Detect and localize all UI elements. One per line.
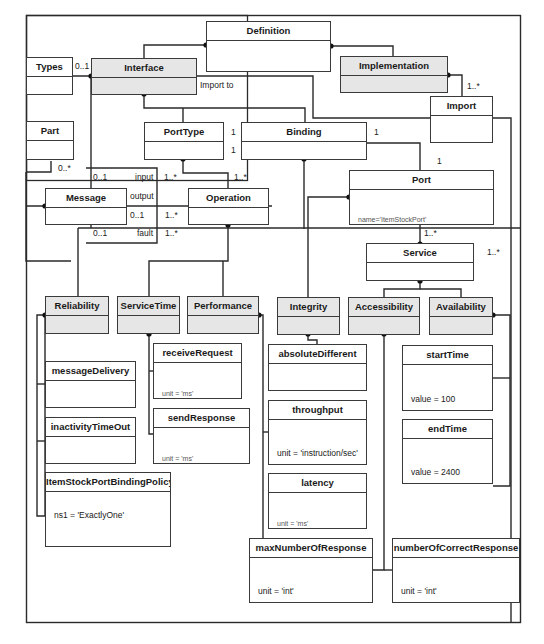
class-performance-name: Performance: [188, 297, 258, 316]
porttype-mult-1: 1: [231, 127, 236, 137]
class-starttime[interactable]: startTime value = 100: [402, 345, 493, 411]
port-multiplicity: 1: [437, 156, 442, 166]
class-part-name: Part: [27, 122, 73, 141]
class-policy-attr: ns1 = 'ExactlyOne': [54, 510, 124, 520]
import-multiplicity: 1..*: [467, 81, 480, 91]
class-inactivitytimeout-name: inactivityTimeOut: [46, 418, 135, 437]
class-numberofcorrectresponse-attr: unit = 'int': [401, 586, 437, 596]
types-multiplicity: 0..1: [75, 61, 89, 71]
fault-multiplicity: 0..1: [93, 228, 107, 238]
class-definition-name: Definition: [207, 22, 330, 41]
import-to-label: Import to: [200, 80, 234, 90]
class-availability[interactable]: Availability: [429, 297, 493, 335]
class-operation[interactable]: Operation: [188, 188, 269, 225]
class-reliability-name: Reliability: [46, 297, 108, 316]
class-servicetime[interactable]: ServiceTime: [117, 296, 180, 334]
class-maxnumberofresponse[interactable]: maxNumberOfResponse unit = 'int': [249, 538, 373, 603]
class-binding-name: Binding: [242, 123, 366, 142]
class-port-name: Port: [350, 171, 493, 190]
service-right-multiplicity: 1..*: [487, 247, 500, 257]
operation-multiplicity: 1..*: [234, 172, 247, 182]
input-multiplicity: 0..1: [93, 172, 107, 182]
class-sendresponse-name: sendResponse: [154, 409, 249, 428]
class-accessibility-name: Accessibility: [349, 298, 419, 317]
class-port[interactable]: Port name='ItemStockPort': [349, 170, 494, 225]
class-availability-name: Availability: [430, 298, 492, 317]
class-service-name: Service: [367, 244, 473, 263]
class-types-name: Types: [27, 58, 72, 77]
class-import-name: Import: [431, 97, 492, 116]
input-label: input: [135, 172, 153, 182]
class-reliability[interactable]: Reliability: [45, 296, 109, 334]
output-multiplicity: 0..1: [130, 210, 144, 220]
class-throughput-attr: unit = 'instruction/sec': [277, 448, 358, 458]
class-message-name: Message: [46, 189, 126, 208]
class-throughput[interactable]: throughput unit = 'instruction/sec': [268, 400, 367, 465]
class-policy-name: ItemStockPortBindingPolicy: [46, 473, 170, 492]
class-latency-attr: unit = 'ms': [277, 520, 308, 527]
class-implementation-name: Implementation: [341, 57, 447, 76]
class-inactivitytimeout[interactable]: inactivityTimeOut: [45, 417, 136, 464]
class-part[interactable]: Part: [26, 121, 74, 160]
output-label: output: [130, 191, 154, 201]
class-latency[interactable]: latency unit = 'ms': [268, 473, 367, 529]
class-receiverequest-attr: unit = 'ms': [162, 390, 193, 397]
service-multiplicity: 1..*: [424, 228, 437, 238]
class-latency-name: latency: [269, 474, 366, 493]
class-absolutedifferent-name: absoluteDifferent: [269, 345, 366, 364]
fault-label: fault: [137, 228, 153, 238]
class-service[interactable]: Service: [366, 243, 474, 281]
class-endtime[interactable]: endTime value = 2400: [402, 419, 493, 484]
class-operation-name: Operation: [189, 189, 268, 208]
class-numberofcorrectresponse[interactable]: numberOfCorrectResponse unit = 'int': [392, 538, 520, 603]
porttype-mult-2: 1: [231, 145, 236, 155]
class-receiverequest[interactable]: receiveRequest unit = 'ms': [153, 343, 242, 399]
input-op-multiplicity: 1..*: [164, 172, 177, 182]
class-numberofcorrectresponse-name: numberOfCorrectResponse: [393, 539, 519, 558]
class-sendresponse[interactable]: sendResponse unit = 'ms': [153, 408, 250, 464]
class-port-attr: name='ItemStockPort': [358, 216, 426, 223]
class-servicetime-name: ServiceTime: [118, 297, 179, 316]
class-integrity[interactable]: Integrity: [277, 297, 340, 335]
class-message[interactable]: Message: [45, 188, 127, 225]
class-messagedelivery[interactable]: messageDelivery: [45, 361, 136, 408]
part-multiplicity: 0..*: [58, 163, 71, 173]
class-messagedelivery-name: messageDelivery: [46, 362, 135, 381]
class-absolutedifferent[interactable]: absoluteDifferent: [268, 344, 367, 391]
output-op-multiplicity: 1..*: [165, 210, 178, 220]
class-implementation[interactable]: Implementation: [340, 56, 448, 93]
class-porttype-name: PortType: [145, 123, 223, 142]
class-maxnumberofresponse-attr: unit = 'int': [258, 586, 294, 596]
class-definition[interactable]: Definition: [206, 21, 331, 72]
class-itemstockportbindingpolicy[interactable]: ItemStockPortBindingPolicy ns1 = 'Exactl…: [45, 472, 171, 547]
class-endtime-attr: value = 2400: [411, 467, 460, 477]
class-interface[interactable]: Interface: [91, 58, 197, 95]
class-endtime-name: endTime: [403, 420, 492, 439]
class-sendresponse-attr: unit = 'ms': [162, 455, 193, 462]
class-interface-name: Interface: [92, 59, 196, 78]
class-maxnumberofresponse-name: maxNumberOfResponse: [250, 539, 372, 558]
class-accessibility[interactable]: Accessibility: [348, 297, 420, 335]
class-throughput-name: throughput: [269, 401, 366, 420]
class-porttype[interactable]: PortType: [144, 122, 224, 160]
binding-multiplicity: 1: [374, 127, 379, 137]
class-starttime-attr: value = 100: [411, 394, 455, 404]
class-receiverequest-name: receiveRequest: [154, 344, 241, 363]
fault-op-multiplicity: 1..*: [165, 228, 178, 238]
class-performance[interactable]: Performance: [187, 296, 259, 334]
class-import[interactable]: Import: [430, 96, 493, 143]
class-binding[interactable]: Binding: [241, 122, 367, 160]
class-integrity-name: Integrity: [278, 298, 339, 317]
class-types[interactable]: Types: [26, 57, 73, 95]
class-starttime-name: startTime: [403, 346, 492, 365]
